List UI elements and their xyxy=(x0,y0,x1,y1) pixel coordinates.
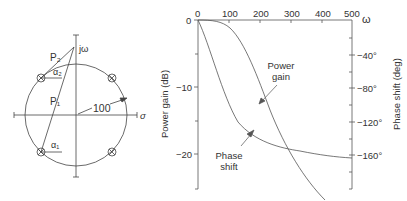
y-axis-label: Power gain (dB) xyxy=(159,70,170,138)
y2-tick-minus80: −80° xyxy=(357,83,377,94)
y2-tick-minus120: −120° xyxy=(357,117,382,128)
bode-chart: 0 100 200 300 400 500 ω 0 −10 −20 −40° −… xyxy=(159,8,402,200)
pole-diagram xyxy=(14,35,137,177)
y2-tick-minus40: −40° xyxy=(357,50,377,61)
y-tick-minus10: −10 xyxy=(176,82,192,93)
x-axis-label: ω xyxy=(362,13,371,25)
y-tick-minus20: −20 xyxy=(176,149,192,160)
pole-lower-right xyxy=(108,148,116,156)
x-tick-300: 300 xyxy=(284,8,300,19)
radius-label: 100 xyxy=(93,102,111,114)
y-tick-0: 0 xyxy=(186,15,191,26)
figure: jω σ 100 P₂ P₁ α₂ α₁ xyxy=(0,0,407,201)
x-tick-0: 0 xyxy=(195,8,200,19)
pole-diagram-labels: jω σ 100 P₂ P₁ α₂ α₁ xyxy=(50,43,147,150)
gain-annotation-line1: Power xyxy=(268,60,295,71)
imag-axis-label: jω xyxy=(78,43,89,54)
pole-upper-right xyxy=(108,74,116,82)
real-axis-label: σ xyxy=(140,110,147,121)
phase-annotation-line2: shift xyxy=(220,161,238,172)
x-tick-100: 100 xyxy=(222,8,238,19)
x-tick-200: 200 xyxy=(253,8,269,19)
y2-axis-label: Phase shift (deg) xyxy=(391,58,402,130)
x-tick-500: 500 xyxy=(344,8,360,19)
x-tick-400: 400 xyxy=(315,8,331,19)
p1-label: P₁ xyxy=(50,96,61,107)
p2-label: P₂ xyxy=(50,52,61,63)
power-gain-curve xyxy=(198,20,325,200)
radius-arrowhead xyxy=(120,98,127,102)
gain-annotation-line2: gain xyxy=(272,71,290,82)
y2-tick-minus160: −160° xyxy=(357,150,382,161)
alpha1-label: α₁ xyxy=(51,140,59,150)
phase-shift-curve xyxy=(198,20,352,158)
phase-annotation-line1: Phase xyxy=(216,150,243,161)
radius-line-a xyxy=(78,108,92,114)
gain-annotation-arrow xyxy=(262,85,277,101)
alpha2-label: α₂ xyxy=(53,67,62,77)
